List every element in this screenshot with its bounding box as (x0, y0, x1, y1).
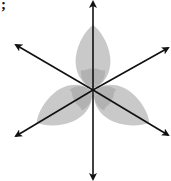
symmetry-diagram (0, 0, 171, 181)
